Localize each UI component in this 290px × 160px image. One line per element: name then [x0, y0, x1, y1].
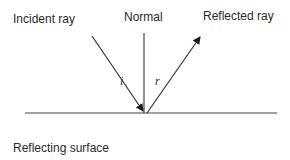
angle-of-reflection-label: r: [155, 74, 160, 88]
normal-label: Normal: [124, 10, 163, 24]
incident-ray-label: Incident ray: [13, 12, 75, 26]
reflecting-surface-label: Reflecting surface: [13, 141, 109, 155]
angle-of-incidence-label: i: [120, 74, 123, 88]
incident-ray-arrow: [92, 36, 143, 111]
reflected-ray-label: Reflected ray: [203, 9, 274, 23]
